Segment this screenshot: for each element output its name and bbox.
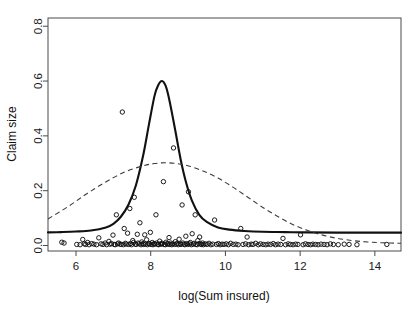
y-tick-label: 0.2 [32,183,44,199]
plot-background [0,0,420,311]
scatter-plot-svg: 68101214 0.00.20.40.60.8 log(Sum insured… [0,0,420,311]
y-tick-label: 0.8 [32,18,44,34]
chart-figure: 68101214 0.00.20.40.60.8 log(Sum insured… [0,0,420,311]
x-axis-title: log(Sum insured) [178,289,269,303]
y-axis-title: Claim size [5,106,19,162]
y-tick-label: 0.0 [32,238,44,254]
x-tick-label: 6 [73,260,79,272]
x-tick-label: 10 [219,260,232,272]
x-tick-label: 8 [148,260,154,272]
y-tick-label: 0.4 [32,127,44,144]
x-tick-label: 12 [294,260,307,272]
y-tick-label: 0.6 [32,73,44,89]
x-tick-label: 14 [368,260,381,272]
